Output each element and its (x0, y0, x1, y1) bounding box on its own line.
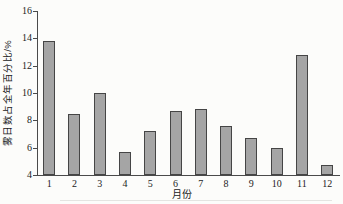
bar-month-2 (68, 114, 80, 176)
x-tick-label: 12 (317, 178, 337, 190)
y-tick-mark (33, 120, 37, 121)
x-tick-label: 4 (115, 178, 135, 190)
bar-month-3 (94, 93, 106, 175)
bar-month-10 (271, 148, 283, 175)
bar-month-4 (119, 152, 131, 175)
y-tick-mark (33, 66, 37, 67)
bar-month-12 (321, 165, 333, 175)
bar-month-5 (144, 131, 156, 175)
x-tick-label: 11 (292, 178, 312, 190)
bar-month-1 (43, 41, 55, 175)
y-tick-label: 16 (6, 5, 32, 17)
y-tick-label: 4 (6, 169, 32, 181)
bar-month-6 (170, 111, 182, 175)
x-tick-label: 1 (39, 178, 59, 190)
y-tick-label: 8 (6, 114, 32, 126)
y-tick-label: 6 (6, 142, 32, 154)
y-tick-mark (33, 175, 37, 176)
y-tick-label: 10 (6, 87, 32, 99)
y-axis-line (37, 11, 38, 176)
y-tick-mark (33, 38, 37, 39)
x-tick-label: 2 (64, 178, 84, 190)
x-tick-label: 3 (90, 178, 110, 190)
x-tick-label: 9 (241, 178, 261, 190)
bar-month-7 (195, 109, 207, 175)
y-tick-label: 14 (6, 32, 32, 44)
bar-month-9 (245, 138, 257, 175)
bottom-artifact-line (60, 200, 332, 201)
fog-days-bar-chart: 雾日数占全年百分比/% 46810121416123456789101112 月… (0, 0, 343, 204)
y-tick-mark (33, 11, 37, 12)
bar-month-11 (296, 55, 308, 175)
bar-month-8 (220, 126, 232, 175)
x-tick-label: 10 (267, 178, 287, 190)
plot-area: 46810121416123456789101112 (0, 0, 343, 204)
y-tick-mark (33, 148, 37, 149)
x-tick-label: 8 (216, 178, 236, 190)
y-tick-label: 12 (6, 60, 32, 72)
y-tick-mark (33, 93, 37, 94)
x-axis-line (37, 175, 340, 176)
